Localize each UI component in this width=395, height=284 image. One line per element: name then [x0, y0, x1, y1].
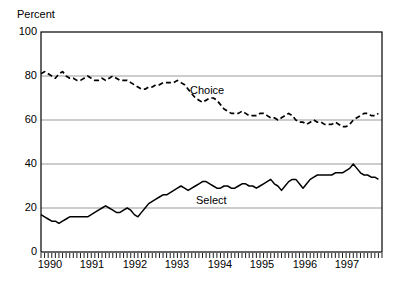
x-tick-label-1995: 1995: [242, 258, 282, 270]
y-tick-label-100: 100: [11, 25, 37, 37]
y-tick-label-0: 0: [11, 245, 37, 257]
x-tick-label-1991: 1991: [72, 258, 112, 270]
plot-area: [0, 0, 395, 284]
x-tick-label-1996: 1996: [285, 258, 325, 270]
y-tick-label-20: 20: [11, 201, 37, 213]
x-tick-label-1992: 1992: [115, 258, 155, 270]
x-tick-label-1994: 1994: [200, 258, 240, 270]
y-axis-title: Percent: [17, 8, 55, 20]
y-tick-label-60: 60: [11, 113, 37, 125]
plot-frame: [41, 32, 382, 252]
series-label-choice: Choice: [190, 84, 224, 96]
y-tick-label-40: 40: [11, 157, 37, 169]
y-tick-label-80: 80: [11, 69, 37, 81]
x-tick-label-1990: 1990: [30, 258, 70, 270]
chart-container: Percent 100 80 60 40 20 0 1990 1991 1992…: [0, 0, 395, 284]
series-label-select: Select: [196, 194, 227, 206]
x-tick-label-1993: 1993: [157, 258, 197, 270]
x-tick-label-1997: 1997: [327, 258, 367, 270]
